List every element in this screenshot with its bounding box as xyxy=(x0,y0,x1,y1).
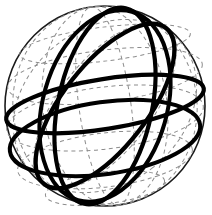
sphere-diagram-root: Bold near-horizontal equator ring, tilte… xyxy=(0,0,212,215)
sphere-figure: Bold near-horizontal equator ring, tilte… xyxy=(0,0,212,215)
